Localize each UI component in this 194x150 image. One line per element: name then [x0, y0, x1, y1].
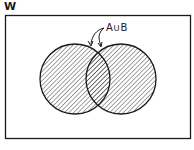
arrowhead-a	[88, 41, 93, 46]
venn-diagram	[0, 0, 194, 150]
